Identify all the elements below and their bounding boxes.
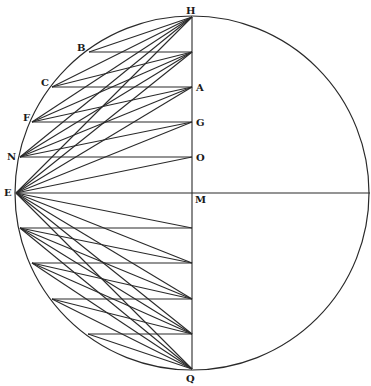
- galileo-circle-diagram: HBCAFGNOEMQ: [0, 0, 371, 386]
- point-label-e: E: [4, 187, 12, 198]
- point-label-m: M: [195, 194, 206, 205]
- inclined-plane-line: [89, 17, 192, 52]
- point-label-q: Q: [186, 373, 195, 384]
- inclined-plane-line: [16, 87, 192, 193]
- point-label-c: C: [41, 77, 49, 88]
- inclined-plane-line: [16, 17, 192, 193]
- point-label-h: H: [186, 5, 195, 16]
- point-label-f: F: [23, 112, 30, 123]
- inclined-plane-line: [16, 193, 192, 228]
- inclined-plane-line: [16, 157, 192, 193]
- inclined-plane-line: [32, 17, 192, 122]
- inclined-plane-line: [20, 228, 192, 334]
- inclined-plane-line: [32, 263, 192, 299]
- point-label-b: B: [77, 42, 85, 53]
- inclined-plane-line: [16, 193, 192, 369]
- point-label-a: A: [195, 82, 204, 93]
- inclined-plane-line: [20, 52, 192, 157]
- inclined-plane-line: [20, 122, 192, 157]
- point-label-g: G: [196, 117, 205, 128]
- point-label-n: N: [7, 151, 16, 162]
- inclined-plane-line: [32, 263, 192, 369]
- axis-lines: [16, 17, 370, 369]
- point-label-o: O: [196, 152, 205, 163]
- inclined-plane-line: [20, 228, 192, 263]
- inclined-plane-line: [88, 334, 192, 369]
